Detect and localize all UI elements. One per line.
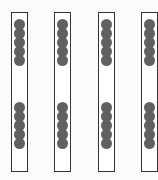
rod-3 — [98, 12, 115, 172]
rod-1 — [11, 12, 28, 172]
dot-top-5 — [144, 55, 155, 66]
dot-bottom-5 — [14, 138, 25, 149]
rod-4 — [141, 12, 158, 172]
dot-bottom-5 — [57, 138, 68, 149]
dot-bottom-5 — [101, 138, 112, 149]
rod-2 — [54, 12, 71, 172]
dot-top-5 — [14, 55, 25, 66]
dot-top-5 — [101, 55, 112, 66]
dot-bottom-5 — [144, 138, 155, 149]
dot-top-5 — [57, 55, 68, 66]
